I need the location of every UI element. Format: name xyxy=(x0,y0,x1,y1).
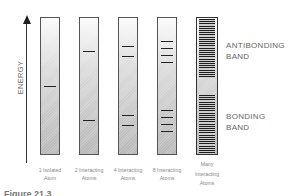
label-line: Atoms xyxy=(106,174,150,182)
energy-level xyxy=(122,46,134,47)
column-1-label: 1 Isolated Atom xyxy=(28,166,72,182)
column-many-interacting-atoms xyxy=(196,17,218,155)
energy-level xyxy=(83,51,95,52)
energy-level xyxy=(122,115,134,116)
column-4-label: 8 Interacting Atoms xyxy=(145,166,189,182)
energy-level xyxy=(122,56,134,57)
label-line: 4 Interacting xyxy=(106,166,150,174)
antibonding-band-label: ANTIBONDING BAND xyxy=(226,40,285,62)
label-line: BAND xyxy=(226,51,285,62)
label-line: Interacting xyxy=(185,170,229,180)
column-2-interacting-atoms xyxy=(79,17,99,155)
label-line: 2 Interacting xyxy=(67,166,111,174)
column-1-isolated-atom xyxy=(40,17,60,155)
energy-axis-line xyxy=(26,22,27,163)
label-line: Atoms xyxy=(185,179,229,189)
label-line: Atoms xyxy=(145,174,189,182)
column-8-interacting-atoms xyxy=(157,17,177,155)
column-5-label: Many Interacting Atoms xyxy=(185,160,229,189)
energy-level xyxy=(44,86,56,87)
label-line: 8 Interacting xyxy=(145,166,189,174)
energy-level xyxy=(83,120,95,121)
energy-level xyxy=(161,110,173,111)
energy-axis-label: ENERGY xyxy=(16,53,25,103)
label-line: Many xyxy=(185,160,229,170)
arrow-up-icon xyxy=(23,15,31,24)
energy-level xyxy=(161,62,173,63)
column-4-interacting-atoms xyxy=(118,17,138,155)
bonding-band-label: BONDING BAND xyxy=(226,111,265,133)
label-line: 1 Isolated xyxy=(28,166,72,174)
label-line: Atoms xyxy=(67,174,111,182)
energy-level xyxy=(161,131,173,132)
antibonding-band xyxy=(199,19,215,78)
energy-level xyxy=(161,124,173,125)
label-line: Atom xyxy=(28,174,72,182)
energy-level xyxy=(122,125,134,126)
energy-level xyxy=(161,41,173,42)
energy-level xyxy=(161,117,173,118)
label-line: ANTIBONDING xyxy=(226,40,285,51)
bonding-band xyxy=(199,95,215,154)
column-3-label: 4 Interacting Atoms xyxy=(106,166,150,182)
energy-level xyxy=(161,55,173,56)
label-line: BONDING xyxy=(226,111,265,122)
label-line: BAND xyxy=(226,122,265,133)
energy-level xyxy=(161,48,173,49)
column-2-label: 2 Interacting Atoms xyxy=(67,166,111,182)
figure-label: Figure 21.3 xyxy=(4,189,52,196)
